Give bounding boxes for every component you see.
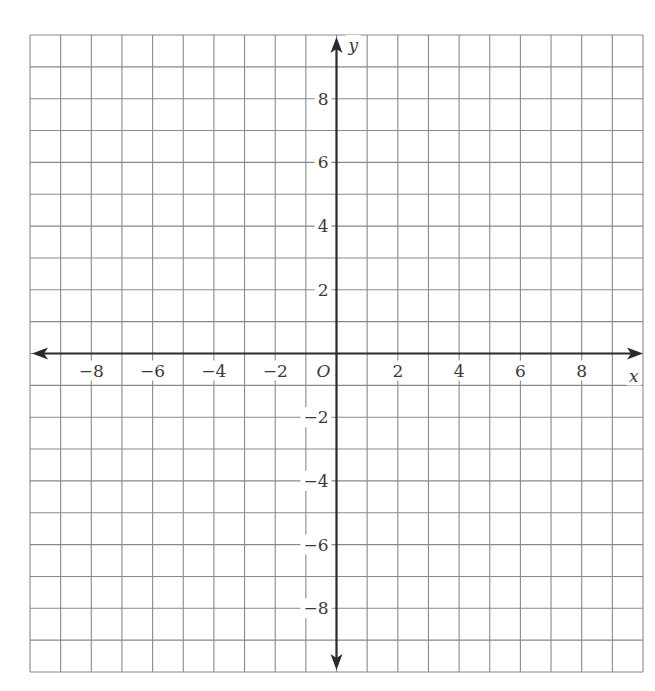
y-tick-label: 8 — [318, 89, 329, 109]
y-axis-label: y — [348, 35, 359, 55]
y-tick-label: −2 — [303, 407, 328, 427]
y-tick-label: −6 — [303, 535, 328, 555]
y-tick-label: −8 — [303, 598, 328, 618]
y-tick-label: 2 — [318, 280, 329, 300]
x-tick-label: 6 — [515, 361, 526, 381]
x-tick-label: −2 — [263, 361, 288, 381]
x-tick-label: −8 — [79, 361, 104, 381]
x-tick-label: 2 — [392, 361, 403, 381]
y-tick-label: 4 — [318, 216, 329, 236]
origin-label: O — [317, 361, 331, 381]
x-tick-label: −6 — [140, 361, 165, 381]
y-tick-label: −4 — [303, 471, 328, 491]
x-tick-label: 4 — [454, 361, 465, 381]
y-tick-label: 6 — [318, 152, 329, 172]
x-tick-label: 8 — [576, 361, 587, 381]
x-axis-label: x — [629, 366, 639, 386]
x-tick-label: −4 — [201, 361, 226, 381]
coordinate-plane: −8−6−4−22468−8−6−4−22468 x y O — [0, 0, 655, 691]
